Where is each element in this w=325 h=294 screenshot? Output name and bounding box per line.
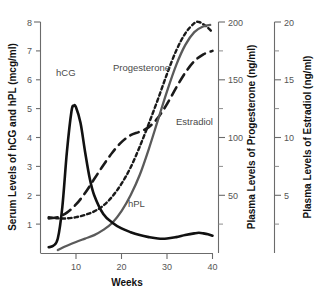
- estradiol-ticklabel-10: 10: [284, 133, 294, 143]
- progesterone-axis: 200 150 100 50 Plasma Levels of Progeste…: [219, 18, 258, 254]
- estradiol-ticklabel-5: 5: [284, 191, 289, 201]
- pregnancy-hormone-chart: 8 7 6 5 4 3 2 1 Serum Levels of hCG and …: [0, 0, 325, 294]
- x-ticklabel-20: 20: [116, 262, 126, 272]
- x-axis-title: Weeks: [111, 277, 143, 288]
- progesterone-ticklabel-200: 200: [228, 18, 243, 28]
- x-ticklabel-30: 30: [162, 262, 172, 272]
- estradiol-axis-title: Plasma Levels of Estradiol (ng/ml): [302, 56, 313, 219]
- left-ticklabel-6: 6: [27, 75, 32, 85]
- left-ticklabel-1: 1: [27, 220, 32, 230]
- x-ticklabel-10: 10: [71, 262, 81, 272]
- x-ticklabel-40: 40: [207, 262, 217, 272]
- left-ticklabel-8: 8: [27, 18, 32, 28]
- estradiol-ticklabel-20: 20: [284, 18, 294, 28]
- left-ticklabel-7: 7: [27, 46, 32, 56]
- progesterone-ticklabel-150: 150: [228, 75, 243, 85]
- x-axis: 10 20 30 40 Weeks: [41, 254, 218, 289]
- left-ticklabel-3: 3: [27, 162, 32, 172]
- hcg-series-label: hCG: [56, 67, 76, 78]
- progesterone-series-label: Progesterone: [113, 62, 170, 73]
- left-axis-title: Serum Levels of hCG and hPL (mcg/ml): [7, 43, 18, 231]
- chart-svg: 8 7 6 5 4 3 2 1 Serum Levels of hCG and …: [0, 0, 325, 294]
- left-ticklabel-2: 2: [27, 191, 32, 201]
- left-axis: 8 7 6 5 4 3 2 1 Serum Levels of hCG and …: [7, 18, 41, 254]
- estradiol-series-label: Estradiol: [176, 116, 213, 127]
- data-curves: [49, 22, 213, 250]
- progesterone-ticklabel-100: 100: [228, 133, 243, 143]
- progesterone-ticklabel-50: 50: [228, 191, 238, 201]
- left-ticklabel-4: 4: [27, 133, 32, 143]
- estradiol-ticklabel-15: 15: [284, 75, 294, 85]
- hpl-series-label: hPL: [128, 198, 145, 209]
- left-ticklabel-5: 5: [27, 104, 32, 114]
- progesterone-axis-title: Plasma Levels of Progesterone (ng/ml): [246, 45, 257, 230]
- estradiol-axis: 20 15 10 5 Plasma Levels of Estradiol (n…: [275, 18, 314, 254]
